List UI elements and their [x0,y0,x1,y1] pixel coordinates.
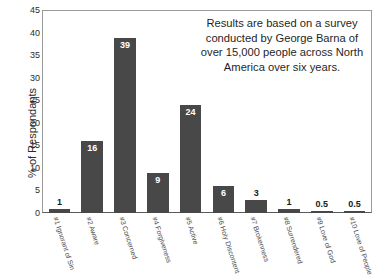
y-tick-label: 40 [16,28,40,38]
x-axis-label: #4 Forgiveness [151,216,172,264]
bar[interactable] [49,209,71,213]
bar-slot: 9 [147,11,169,213]
x-label-slot: #7 Brokenness [240,214,273,279]
bar-value-label: 3 [245,189,267,198]
bar-value-label: 6 [213,189,235,198]
bar[interactable] [311,211,333,214]
x-axis-label: #5 Active [184,216,199,245]
bar-slot: 16 [81,11,103,213]
x-label-slot: #6 Holy Discontent [207,214,240,279]
x-label-slot: #8 Surrendered [273,214,306,279]
survey-source-annotation: Results are based on a survey conducted … [196,16,368,74]
bar-value-label: 0.5 [344,200,366,209]
x-axis-label: #6 Holy Discontent [217,216,242,274]
y-axis-tick-labels: 051015202530354045 [16,10,40,213]
bar-slot: 1 [49,11,71,213]
x-label-slot: #2 Aware [76,214,109,279]
y-tick-label: 30 [16,73,40,83]
x-label-slot: #10 Love of People [338,214,371,279]
y-tick-label: 20 [16,118,40,128]
y-tick-label: 45 [16,5,40,15]
x-axis-label: #3 Concerned [118,216,138,260]
x-axis-label: #10 Love of People [348,216,373,276]
bar-value-label: 16 [81,144,103,153]
x-label-slot: #4 Forgiveness [141,214,174,279]
bar-value-label: 1 [49,198,71,207]
x-axis-label: #9 Love of God [315,216,336,264]
bar-value-label: 9 [147,176,169,185]
bar-value-label: 24 [180,108,202,117]
x-axis-category-labels: #1 Ignorant of Sin#2 Aware#3 Concerned#4… [43,214,371,279]
x-label-slot: #3 Concerned [109,214,142,279]
bar-value-label: 1 [278,198,300,207]
bar-chart-screenshot: % of Respondants 051015202530354045 1163… [0,0,378,279]
bar[interactable] [245,200,267,213]
x-axis-label: #8 Surrendered [282,216,304,264]
x-label-slot: #5 Active [174,214,207,279]
bar-value-label: 39 [114,41,136,50]
bar-value-label: 0.5 [311,200,333,209]
x-axis-label: #1 Ignorant of Sin [53,216,77,271]
y-tick-label: 35 [16,50,40,60]
bar[interactable] [278,209,300,213]
y-tick-label: 25 [16,95,40,105]
bar-slot: 39 [114,11,136,213]
x-label-slot: #1 Ignorant of Sin [43,214,76,279]
bar[interactable] [344,211,366,214]
bar[interactable] [180,105,202,213]
x-axis-label: #2 Aware [86,216,102,246]
y-tick-label: 15 [16,140,40,150]
y-tick-label: 5 [16,185,40,195]
y-tick-label: 0 [16,208,40,218]
y-tick-label: 10 [16,163,40,173]
bar[interactable] [114,38,136,213]
x-axis-label: #7 Brokenness [250,216,271,263]
x-label-slot: #9 Love of God [305,214,338,279]
